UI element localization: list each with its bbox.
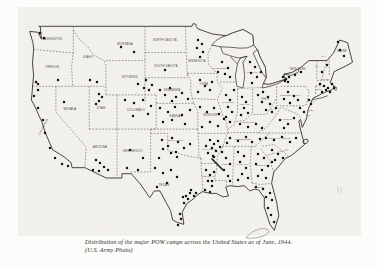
camp-dot — [225, 94, 228, 97]
state-label: NORTH CAROLINA — [268, 137, 292, 139]
camp-dot — [211, 185, 214, 188]
camp-dot — [171, 119, 174, 122]
camp-dot — [182, 196, 185, 199]
camp-dot — [259, 138, 262, 141]
camp-dot — [327, 87, 330, 90]
camp-dot — [245, 101, 248, 104]
camp-dot — [225, 157, 228, 160]
camp-dot — [247, 126, 250, 129]
camp-dot — [224, 73, 227, 76]
camp-dot — [162, 148, 165, 151]
camp-dot — [148, 89, 151, 92]
camp-dot — [219, 146, 222, 149]
camp-dot — [217, 125, 220, 128]
camp-dot — [159, 89, 162, 92]
state-label: MICHIGAN — [247, 71, 261, 74]
camp-dot — [294, 74, 297, 77]
camp-dot — [39, 32, 42, 35]
camp-dot — [241, 96, 244, 99]
camp-dot — [175, 96, 178, 99]
camp-dot — [221, 151, 224, 154]
camp-dot — [176, 156, 179, 159]
camp-dot — [190, 189, 193, 192]
camp-dot — [251, 82, 254, 85]
camp-dot — [98, 170, 101, 173]
camp-dot — [137, 169, 140, 172]
camp-dot — [95, 159, 98, 162]
camp-dot — [229, 163, 232, 166]
camp-dot — [229, 121, 232, 124]
camp-dot — [96, 81, 99, 84]
camp-dot — [227, 67, 230, 70]
camp-dot — [283, 98, 286, 101]
camp-dot — [213, 156, 216, 159]
camp-dot — [213, 107, 216, 110]
camp-dot — [265, 137, 268, 140]
camp-dot — [277, 153, 280, 156]
state-label: UTAH — [97, 106, 106, 110]
camp-dot — [329, 91, 332, 94]
state-label: OREGON — [45, 65, 59, 69]
camp-dot — [310, 103, 313, 106]
camp-dot — [129, 149, 132, 152]
state-label: VT. — [315, 65, 319, 67]
state-label: GEORGIA — [255, 164, 269, 167]
state-label: ALABAMA — [235, 163, 248, 166]
camp-dot — [260, 71, 263, 74]
camp-dot — [145, 79, 148, 82]
camp-dot — [35, 81, 38, 84]
camp-dot — [209, 174, 212, 177]
camp-dot — [33, 95, 36, 98]
state-label: MISS. — [221, 163, 229, 166]
camp-dot — [331, 83, 334, 86]
state-label: SOUTH DAKOTA — [154, 64, 178, 68]
camp-dot — [206, 111, 209, 114]
camp-dot — [159, 107, 162, 110]
camp-dot — [293, 117, 296, 120]
camp-dot — [275, 107, 278, 110]
camp-dot — [37, 89, 40, 92]
camp-dot — [37, 107, 40, 110]
camp-dot — [255, 186, 258, 189]
camp-dot — [98, 93, 101, 96]
state-label: KANSAS — [169, 114, 182, 118]
camp-dot — [174, 106, 177, 109]
camp-dot — [221, 61, 224, 64]
camp-dot — [167, 145, 170, 148]
camp-dot — [273, 139, 276, 142]
camp-dot — [202, 51, 205, 54]
camp-dot — [142, 99, 145, 102]
state-label: MASS. — [322, 78, 330, 80]
camp-dot — [271, 161, 274, 164]
camp-dot — [333, 87, 336, 90]
state-label: NEW MEXICO — [123, 149, 143, 153]
camp-dot — [151, 84, 154, 87]
camp-dot — [339, 49, 342, 52]
camp-dot — [161, 139, 164, 142]
camp-dot — [308, 99, 311, 102]
camp-dot — [257, 175, 260, 178]
camp-dot — [204, 85, 207, 88]
camp-dot — [189, 192, 192, 195]
camp-dot — [247, 112, 250, 115]
camp-dot — [227, 175, 230, 178]
camp-dot — [197, 91, 200, 94]
camp-dot — [207, 180, 210, 183]
camp-dot — [256, 76, 259, 79]
camp-dot — [177, 141, 180, 144]
camp-dot — [321, 71, 324, 74]
camp-dot — [193, 195, 196, 198]
camp-dot — [289, 102, 292, 105]
camp-dot — [337, 41, 340, 44]
camp-dot — [243, 107, 246, 110]
camp-dot — [215, 150, 218, 153]
camp-dot — [171, 137, 174, 140]
camp-dot — [142, 157, 145, 160]
camp-dot — [177, 224, 180, 227]
camp-dot — [181, 92, 184, 95]
state-label: DEL. — [309, 109, 315, 111]
camp-dot — [133, 51, 136, 54]
state-label: COLORADO — [127, 108, 146, 112]
camp-dot — [281, 136, 284, 139]
camp-dot — [199, 79, 202, 82]
